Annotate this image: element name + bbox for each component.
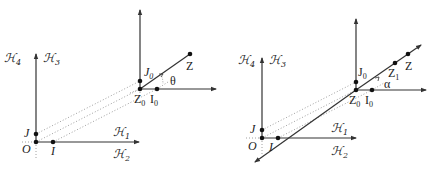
diagram-canvas: ℋ4 ℋ3 ℋ1 ℋ2 J O I J0 Z0 I0 Z θ [0,0,438,173]
label-O: O [22,142,31,156]
label-h4: ℋ4 [238,53,255,69]
label-h1: ℋ1 [331,121,348,137]
point-J0 [354,80,359,85]
point-I [276,136,281,141]
label-Z0: Z0 [134,92,145,108]
angle-arrow-icon [375,77,379,81]
point-Z0 [354,88,359,93]
label-Z: Z [405,59,412,73]
point-Z [406,52,411,57]
label-I: I [268,140,274,154]
label-alpha: α [384,77,391,91]
label-J0: J0 [358,65,367,81]
label-theta: θ [170,74,176,88]
point-Z0 [138,87,143,92]
right-figure: ℋ4 ℋ3 ℋ1 ℋ2 J O I J0 Z0 I0 Z1 Z α [238,19,426,162]
point-J [34,132,39,137]
label-I0: I0 [365,93,373,109]
point-O [260,136,265,141]
label-Z0: Z0 [349,93,360,109]
point-Z [188,52,193,57]
label-h3: ℋ3 [269,53,286,69]
point-I0 [370,88,375,93]
label-I: I [50,144,56,158]
point-J0 [138,79,143,84]
label-J: J [250,122,256,136]
label-Z: Z [186,59,193,73]
projection-lines [22,81,168,158]
point-O [34,140,39,145]
left-figure: ℋ4 ℋ3 ℋ1 ℋ2 J O I J0 Z0 I0 Z θ [4,10,216,163]
point-J [260,128,265,133]
label-h1: ℋ1 [113,125,130,141]
label-J: J [24,126,30,140]
point-I0 [155,87,160,92]
label-J0: J0 [144,65,153,81]
label-O: O [248,139,257,153]
point-Z1 [393,61,398,66]
label-h2: ℋ2 [113,147,130,163]
label-h4: ℋ4 [4,51,21,67]
label-I0: I0 [150,92,158,108]
label-h3: ℋ3 [43,51,60,67]
label-h2: ℋ2 [331,144,348,160]
